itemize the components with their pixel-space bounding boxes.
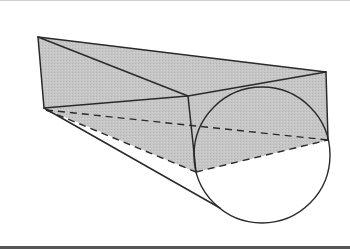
geometry-diagram: [0, 0, 350, 249]
